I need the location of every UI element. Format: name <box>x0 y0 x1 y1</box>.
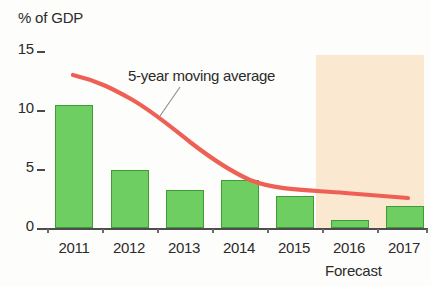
bar-2016 <box>331 220 369 228</box>
x-axis-line <box>40 228 428 230</box>
bar-2012 <box>111 170 149 228</box>
x-tick-mark-4 <box>267 229 269 233</box>
y-tick-dash-5 <box>37 169 45 171</box>
chart-figure: % of GDP 15 10 5 0 2011 2012 2013 2014 2… <box>0 0 431 286</box>
x-tick-mark-5 <box>322 229 324 233</box>
bar-2013 <box>166 190 204 228</box>
y-tick-label-5: 5 <box>4 158 34 175</box>
x-tick-mark-7 <box>426 229 428 233</box>
annotation-leader-line <box>160 87 180 116</box>
x-tick-label-2013: 2013 <box>162 239 206 256</box>
y-tick-label-15: 15 <box>4 40 34 57</box>
x-tick-mark-0 <box>47 229 49 233</box>
x-tick-label-2016: 2016 <box>327 239 371 256</box>
x-tick-mark-2 <box>157 229 159 233</box>
y-tick-label-10: 10 <box>4 99 34 116</box>
x-tick-label-2011: 2011 <box>52 239 96 256</box>
bar-2014 <box>221 180 259 228</box>
y-axis-title: % of GDP <box>18 9 83 26</box>
x-tick-mark-6 <box>377 229 379 233</box>
y-tick-dash-10 <box>37 110 45 112</box>
bar-2015 <box>276 196 314 228</box>
x-tick-label-2017: 2017 <box>382 239 426 256</box>
y-tick-label-0: 0 <box>4 217 34 234</box>
x-tick-label-2012: 2012 <box>107 239 151 256</box>
forecast-label: Forecast <box>325 262 382 279</box>
x-tick-mark-3 <box>212 229 214 233</box>
forecast-shaded-region <box>316 55 424 228</box>
x-tick-label-2015: 2015 <box>272 239 316 256</box>
x-tick-label-2014: 2014 <box>217 239 261 256</box>
bar-2011 <box>55 105 93 228</box>
x-tick-mark-1 <box>102 229 104 233</box>
moving-average-annotation: 5-year moving average <box>128 67 275 84</box>
bar-2017 <box>386 206 424 228</box>
y-tick-dash-15 <box>37 51 45 53</box>
